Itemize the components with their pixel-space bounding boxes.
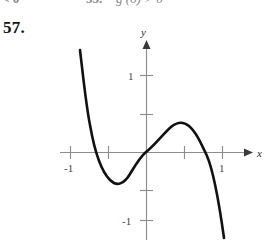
function-curve xyxy=(80,50,224,238)
x-tick-label-1: 1 xyxy=(219,162,225,174)
y-tick-label-1: 1 xyxy=(128,70,134,82)
x-axis-label: x xyxy=(256,147,262,159)
x-tick-label-minus-1: -1 xyxy=(64,162,73,174)
y-axis-arrowhead xyxy=(143,40,151,49)
graph-figure: y x -1 1 1 -1 xyxy=(0,0,269,240)
x-axis-arrowhead xyxy=(244,149,253,157)
y-tick-label-minus-1: -1 xyxy=(122,215,131,227)
y-axis-label: y xyxy=(140,26,146,38)
